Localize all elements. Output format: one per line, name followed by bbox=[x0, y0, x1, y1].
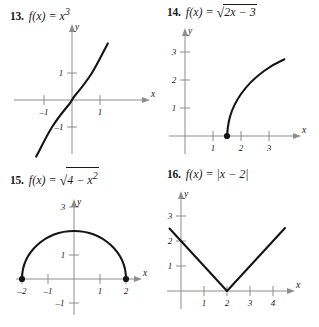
y-axis-label: y bbox=[183, 189, 189, 199]
x-axis-label: x bbox=[295, 280, 301, 290]
y-axis-label: y bbox=[187, 26, 193, 36]
x-axis-label: x bbox=[150, 89, 156, 99]
exercise-16-number: 16. bbox=[167, 168, 181, 180]
x-axis-arrow bbox=[287, 288, 295, 294]
y-tick-label-2: 2 bbox=[172, 75, 177, 85]
exercise-14-number: 14. bbox=[167, 6, 181, 18]
exercise-13: 13.f(x) = x3 f(x) = x^3 –1 bbox=[0, 0, 159, 163]
y-tick-label-1: 1 bbox=[61, 250, 66, 260]
exercise-13-svg: –1 1 1 –1 x y bbox=[0, 18, 159, 163]
x-tick-label-neg2: –2 bbox=[17, 286, 28, 296]
y-tick-label-3: 3 bbox=[60, 202, 66, 212]
x-tick-label-2: 2 bbox=[124, 286, 129, 296]
exercise-figure-grid: 13.f(x) = x3 f(x) = x^3 –1 bbox=[0, 0, 319, 327]
exercise-15: 15.f(x) = √4 − x2 f(x) = sqrt(4 - x^2) bbox=[0, 163, 159, 326]
y-tick-label-1: 1 bbox=[59, 68, 64, 78]
x-tick-label-neg1: –1 bbox=[43, 286, 53, 296]
endpoint-dot-left bbox=[19, 276, 25, 282]
x-tick-label-1: 1 bbox=[98, 286, 103, 296]
y-tick-label-1: 1 bbox=[172, 103, 177, 113]
exercise-16: 16.f(x) = |x − 2| f(x) = |x - 2| bbox=[159, 163, 318, 326]
tick-labels-14: 1 2 3 1 2 3 x y bbox=[171, 26, 307, 153]
x-tick-label-neg1: –1 bbox=[39, 107, 49, 117]
exercise-14-expression: f(x) = √2x − 3 bbox=[186, 5, 257, 19]
tick-labels-15: –2 –1 1 2 3 1 –1 x y bbox=[17, 197, 149, 308]
exercise-16-header: 16.f(x) = |x − 2| bbox=[167, 167, 249, 182]
endpoint-dot-right bbox=[123, 276, 129, 282]
exercise-15-svg: –2 –1 1 2 3 1 –1 x y bbox=[0, 181, 159, 326]
x-axis-label: x bbox=[301, 125, 307, 135]
y-tick-label-1: 1 bbox=[168, 261, 173, 271]
y-tick-label-2: 2 bbox=[168, 236, 173, 246]
exercise-13-plot: –1 1 1 –1 x y bbox=[0, 18, 159, 163]
axes-13 bbox=[14, 24, 150, 154]
axes-14 bbox=[169, 28, 301, 154]
exercise-14-expression-text: f(x) = sqrt(2x - 3) bbox=[159, 0, 160, 1]
exercise-16-expression-text: f(x) = |x - 2| bbox=[159, 163, 160, 164]
exercise-13-expression-text: f(x) = x^3 bbox=[0, 0, 1, 1]
axes-15 bbox=[16, 199, 142, 315]
y-axis-label: y bbox=[74, 22, 80, 32]
x-axis-arrow bbox=[142, 97, 150, 103]
exercise-14-svg: 1 2 3 1 2 3 x y bbox=[159, 18, 318, 163]
exercise-14: 14.f(x) = √2x − 3 f(x) = sqrt(2x - 3) bbox=[159, 0, 318, 163]
curve-abs-x-minus-2 bbox=[170, 228, 286, 291]
x-axis-label: x bbox=[142, 268, 148, 278]
axes-16 bbox=[167, 191, 295, 309]
exercise-16-plot: 1 2 3 4 1 2 3 x y bbox=[159, 181, 318, 326]
ticks-14 bbox=[180, 52, 269, 141]
x-axis-arrow bbox=[293, 133, 301, 139]
x-tick-label-2: 2 bbox=[239, 143, 244, 153]
x-tick-label-4: 4 bbox=[271, 298, 276, 308]
x-tick-label-3: 3 bbox=[247, 298, 253, 308]
x-tick-label-1: 1 bbox=[202, 298, 207, 308]
x-tick-label-1: 1 bbox=[211, 143, 216, 153]
x-tick-label-2: 2 bbox=[225, 298, 230, 308]
exercise-14-plot: 1 2 3 1 2 3 x y bbox=[159, 18, 318, 163]
exercise-15-expression-text: f(x) = sqrt(4 - x^2) bbox=[0, 163, 1, 164]
y-axis-label: y bbox=[76, 197, 82, 207]
curve-sqrt-2x-minus-3 bbox=[227, 59, 284, 136]
exercise-16-expression: f(x) = |x − 2| bbox=[186, 167, 249, 181]
x-tick-label-3: 3 bbox=[266, 143, 272, 153]
endpoint-dot-closed bbox=[224, 133, 230, 139]
y-tick-label-neg1: –1 bbox=[55, 298, 65, 308]
x-tick-label-1: 1 bbox=[98, 107, 103, 117]
x-axis-arrow bbox=[134, 276, 142, 282]
exercise-16-svg: 1 2 3 4 1 2 3 x y bbox=[159, 181, 318, 326]
y-tick-label-3: 3 bbox=[171, 47, 177, 57]
y-tick-label-3: 3 bbox=[167, 211, 173, 221]
exercise-15-plot: –2 –1 1 2 3 1 –1 x y bbox=[0, 181, 159, 326]
tick-labels-13: –1 1 1 –1 x y bbox=[39, 22, 157, 132]
